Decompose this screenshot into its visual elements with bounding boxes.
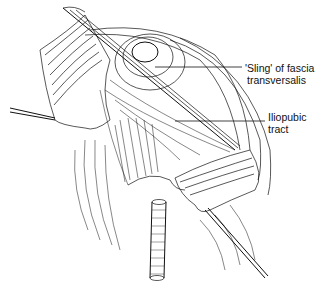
- lower-retractor: [205, 210, 265, 278]
- sling-label-line1: 'Sling' of fascia: [245, 62, 314, 74]
- anatomical-illustration: [0, 0, 323, 283]
- sling-label: 'Sling' of fascia transversalis: [245, 62, 314, 86]
- iliopubic-label: Iliopubic tract: [268, 111, 307, 135]
- tubular-vessel: [150, 200, 166, 281]
- sling-label-line2: transversalis: [247, 74, 314, 86]
- iliopubic-label-line1: Iliopubic: [268, 111, 307, 123]
- deep-inguinal-ring: [132, 42, 158, 62]
- lower-right-flap: [175, 150, 259, 212]
- iliopubic-label-line2: tract: [268, 123, 307, 135]
